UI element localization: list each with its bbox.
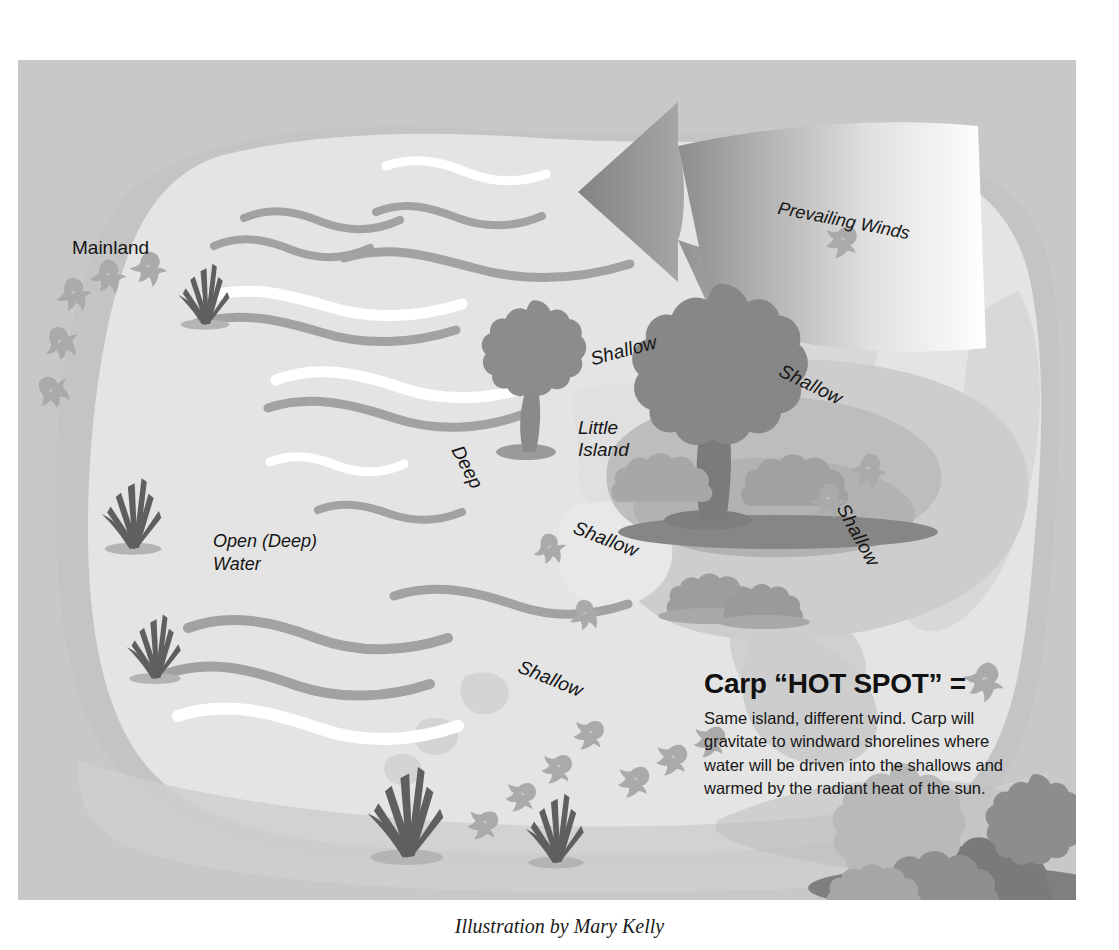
label-open-water-line1: Open (Deep) [213, 530, 317, 553]
callout-body: Same island, different wind. Carp will g… [704, 707, 1034, 801]
label-little-island-line2: Island [578, 439, 629, 461]
label-open-deep-water: Open (Deep) Water [213, 530, 317, 575]
callout-title: Carp “HOT SPOT” = [704, 668, 1034, 700]
label-little-island: Little Island [578, 417, 629, 462]
illustration-credit: Illustration by Mary Kelly [0, 915, 1119, 950]
illustration-frame: Mainland Prevailing Winds Deep Little Is… [18, 60, 1076, 900]
label-little-island-line1: Little [578, 417, 629, 439]
carp-hot-spot-callout: Carp “HOT SPOT” = Same island, different… [704, 668, 1034, 801]
label-mainland: Mainland [72, 237, 149, 259]
illustration-page: Mainland Prevailing Winds Deep Little Is… [0, 0, 1119, 950]
label-open-water-line2: Water [213, 553, 317, 576]
